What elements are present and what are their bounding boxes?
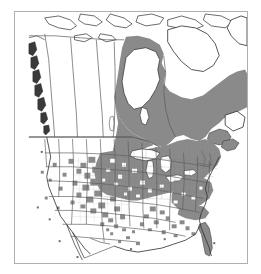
north-america-map[interactable] (15, 12, 247, 263)
map-figure: Present / recorded Absent / not recorded (0, 0, 261, 274)
map-frame (14, 11, 248, 264)
water-lake-winnipeg (109, 116, 114, 131)
